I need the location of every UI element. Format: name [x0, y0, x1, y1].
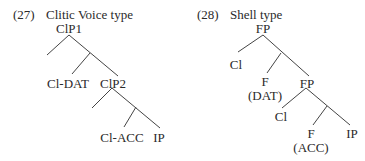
node-inner: ClP2: [100, 77, 126, 90]
node-head1: F: [261, 75, 268, 88]
node-root: FP: [256, 22, 270, 35]
diagram-title: Clitic Voice type: [46, 8, 133, 21]
node-root: ClP1: [56, 22, 82, 35]
node-head2-feature: (ACC): [293, 141, 328, 154]
node-spec2: Cl-ACC: [100, 131, 143, 144]
node-complement: IP: [153, 131, 165, 144]
node-spec1: Cl: [230, 58, 242, 71]
node-complement: IP: [346, 127, 358, 140]
example-number: (27): [13, 8, 35, 21]
node-head2: F: [307, 127, 314, 140]
node-head1-feature: (DAT): [248, 89, 282, 102]
node-inner: FP: [300, 77, 314, 90]
node-spec2: Cl: [275, 110, 287, 123]
node-spec1: Cl-DAT: [47, 77, 89, 90]
diagram-title: Shell type: [230, 8, 282, 21]
example-number: (28): [197, 8, 219, 21]
